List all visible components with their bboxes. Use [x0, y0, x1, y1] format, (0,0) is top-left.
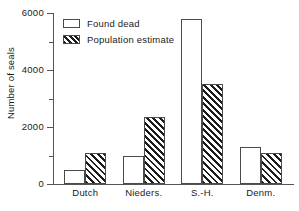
y-axis-tick-label: 2000	[0, 122, 44, 132]
legend-label-found-dead: Found dead	[87, 19, 140, 29]
bar-denm-found-dead	[240, 147, 261, 184]
x-axis-label-denm: Denm.	[226, 188, 296, 198]
bar-nieders-found-dead	[123, 156, 144, 185]
y-axis-tick-label: 6000	[0, 8, 44, 18]
legend-swatch-hatched-icon	[63, 35, 80, 44]
bar-dutch-found-dead	[64, 170, 85, 184]
legend-label-population-estimate: Population estimate	[87, 35, 174, 45]
legend-swatch-open-icon	[63, 19, 80, 28]
y-axis-tick-label: 4000	[0, 65, 44, 75]
y-axis-tick-label: 0	[0, 179, 44, 189]
chart-legend: Found dead Population estimate	[63, 17, 174, 49]
seal-mortality-bar-chart: Number of seals 0200040006000 DutchNiede…	[0, 0, 299, 211]
legend-entry-population-estimate: Population estimate	[63, 33, 174, 46]
bar-s-h-found-dead	[181, 19, 202, 184]
bar-dutch-population-estimate	[85, 153, 106, 184]
bar-nieders-population-estimate	[144, 117, 165, 184]
bar-s-h-population-estimate	[202, 84, 223, 184]
bar-denm-population-estimate	[261, 153, 282, 184]
legend-entry-found-dead: Found dead	[63, 17, 174, 30]
